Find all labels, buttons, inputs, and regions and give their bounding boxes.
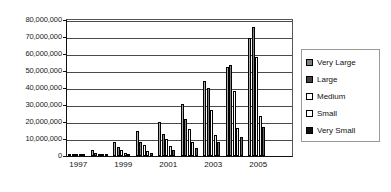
- bar: [195, 148, 198, 157]
- chart-legend: Very LargeLargeMediumSmallVery Small: [301, 49, 380, 142]
- y-axis-tick-label: 30,000,000: [25, 101, 62, 109]
- x-axis-tick-label: 2001: [159, 160, 177, 169]
- bar-chart: 010,000,00020,000,00030,000,00040,000,00…: [0, 0, 391, 192]
- y-axis-tick-label: 20,000,000: [25, 118, 62, 126]
- legend-item-label: Small: [317, 109, 337, 118]
- bar: [262, 127, 265, 156]
- y-axis-tick-label: 60,000,000: [25, 50, 62, 58]
- legend-swatch-icon: [306, 76, 313, 83]
- legend-item[interactable]: Medium: [306, 88, 379, 105]
- x-axis-tick-label: 2003: [204, 160, 222, 169]
- bar-cluster: [68, 20, 89, 156]
- y-axis-tick-label: 40,000,000: [25, 84, 62, 92]
- bar-cluster: [91, 20, 112, 156]
- bar-series-layer: [67, 20, 292, 156]
- y-axis-tick-label: 70,000,000: [25, 33, 62, 41]
- legend-item[interactable]: Very Small: [306, 122, 379, 139]
- bar-cluster: [248, 20, 269, 156]
- legend-item-label: Medium: [317, 92, 345, 101]
- bar: [217, 142, 220, 156]
- legend-swatch-icon: [306, 110, 313, 117]
- y-axis-tickmark: [63, 156, 67, 157]
- y-axis-tick-label: 80,000,000: [25, 16, 62, 24]
- bar: [105, 154, 108, 156]
- bar-cluster: [113, 20, 134, 156]
- bar-cluster: [158, 20, 179, 156]
- x-axis-tick-label: 2005: [249, 160, 267, 169]
- legend-swatch-icon: [306, 93, 313, 100]
- legend-swatch-icon: [306, 59, 313, 66]
- legend-item[interactable]: Very Large: [306, 54, 379, 71]
- bar: [82, 154, 85, 156]
- bar-cluster: [136, 20, 157, 156]
- bar-cluster: [203, 20, 224, 156]
- x-axis-tick-label: 1999: [114, 160, 132, 169]
- legend-item-label: Very Small: [317, 126, 355, 135]
- bar-cluster: [181, 20, 202, 156]
- bar: [127, 154, 130, 156]
- legend-item[interactable]: Large: [306, 71, 379, 88]
- y-axis-tick-label: 10,000,000: [25, 135, 62, 143]
- bar-cluster: [271, 20, 292, 156]
- legend-item-label: Very Large: [317, 58, 356, 67]
- bar: [172, 150, 175, 156]
- legend-swatch-icon: [306, 127, 313, 134]
- y-axis-tick-label: 50,000,000: [25, 67, 62, 75]
- bar: [240, 137, 243, 156]
- x-axis-tick-label: 1997: [69, 160, 87, 169]
- x-axis: 19971999200120032005: [66, 160, 293, 178]
- legend-item-label: Large: [317, 75, 337, 84]
- bar: [150, 153, 153, 156]
- y-axis: 010,000,00020,000,00030,000,00040,000,00…: [0, 0, 62, 192]
- y-axis-tick-label: 0: [58, 152, 62, 160]
- legend-item[interactable]: Small: [306, 105, 379, 122]
- bar-cluster: [226, 20, 247, 156]
